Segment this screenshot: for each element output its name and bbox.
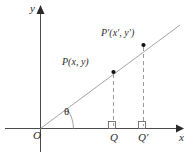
angle-ray (41, 25, 181, 129)
diagram-canvas (0, 0, 193, 160)
foot-q-label: Q (110, 132, 118, 143)
right-angle-mark-qprime (139, 122, 146, 129)
theta-angle-label: θ (64, 106, 69, 117)
foot-qprime-label: Q′ (138, 132, 148, 143)
point-p-marker (111, 70, 115, 74)
y-axis-label: y (30, 3, 35, 14)
right-angle-mark-q (109, 122, 116, 129)
point-pprime-label: P′(x′, y′) (101, 28, 134, 38)
x-axis-label: x (179, 132, 184, 143)
y-axis-arrowhead (37, 5, 45, 14)
point-p-label: P(x, y) (62, 57, 89, 67)
coordinate-diagram: y x O θ P(x, y) P′(x′, y′) Q Q′ (0, 0, 193, 160)
point-pprime-marker (141, 43, 145, 47)
origin-label: O (33, 130, 41, 141)
